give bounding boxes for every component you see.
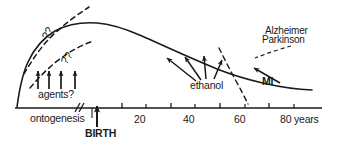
alzheimer-parkinson-leader [255,46,291,58]
mi-label: MI [262,76,273,87]
birth-label: BIRTH [85,128,116,139]
lifespan-capacity-figure: ?? ?? agents? ethanol MI Alzheimer Parki… [0,0,337,150]
ontogenesis-label: ontogenesis [30,113,84,124]
ethanol-label: ethanol [190,80,223,91]
agents-label: agents? [38,89,74,100]
x-tick-label-20: 20 [134,114,145,125]
figure-canvas [0,0,337,150]
accelerated-decline-curve [219,48,248,104]
parkinson-label: Parkinson [262,35,305,46]
hypothetical-lower-curve [30,41,94,88]
x-tick-label-40: 40 [183,114,194,125]
x-tick-label-80-years: 80 years [280,114,319,125]
x-tick-label-60: 60 [234,114,245,125]
hypothetical-upper-curve [24,7,89,74]
